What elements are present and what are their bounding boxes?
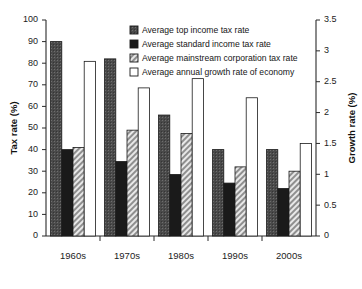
chart-container: 0102030405060708090100Tax rate (%)00.511…: [0, 0, 362, 289]
y-tick-label-right: 1.5: [324, 138, 337, 148]
bar-2000s-series-4[interactable]: [300, 143, 311, 236]
y-tick-label-left: 80: [28, 58, 38, 68]
x-tick-label-1960s: 1960s: [60, 250, 86, 261]
bar-1990s-series-3[interactable]: [235, 167, 246, 236]
y-tick-label-right: 3.5: [324, 14, 337, 24]
y-tick-label-left: 100: [23, 14, 38, 24]
bar-1980s-series-2[interactable]: [170, 174, 181, 236]
legend-swatch-2[interactable]: [130, 40, 138, 48]
y-tick-label-left: 60: [28, 101, 38, 111]
x-tick-label-1980s: 1980s: [168, 250, 194, 261]
legend-label-1: Average top income tax rate: [142, 25, 250, 35]
x-tick-label-1970s: 1970s: [114, 250, 140, 261]
bar-2000s-series-3[interactable]: [289, 171, 300, 236]
bar-1970s-series-2[interactable]: [116, 161, 127, 236]
grouped-bar-chart: 0102030405060708090100Tax rate (%)00.511…: [0, 0, 362, 289]
x-tick-label-1990s: 1990s: [222, 250, 248, 261]
bar-1990s-series-4[interactable]: [246, 98, 257, 236]
bar-1970s-series-3[interactable]: [127, 130, 138, 236]
bar-1990s-series-1[interactable]: [213, 150, 224, 236]
y-tick-label-left: 90: [28, 36, 38, 46]
y-tick-label-right: 2: [324, 107, 329, 117]
bar-1970s-series-1[interactable]: [105, 59, 116, 236]
bar-1960s-series-2[interactable]: [62, 150, 73, 236]
y-tick-label-right: 1: [324, 169, 329, 179]
y-tick-label-left: 70: [28, 79, 38, 89]
legend-label-2: Average standard income tax rate: [142, 39, 271, 49]
bar-1980s-series-3[interactable]: [181, 133, 192, 236]
y-tick-label-left: 10: [28, 209, 38, 219]
legend-swatch-3[interactable]: [130, 54, 138, 62]
y-tick-label-right: 3: [324, 45, 329, 55]
y-tick-label-left: 50: [28, 122, 38, 132]
bar-1970s-series-4[interactable]: [138, 88, 149, 236]
y-tick-label-left: 40: [28, 144, 38, 154]
y-axis-title-left: Tax rate (%): [8, 101, 19, 154]
bar-1960s-series-3[interactable]: [73, 147, 84, 236]
bar-1980s-series-1[interactable]: [159, 115, 170, 236]
bar-1990s-series-2[interactable]: [224, 183, 235, 236]
y-tick-label-right: 0: [324, 230, 329, 240]
y-tick-label-right: 2.5: [324, 76, 337, 86]
y-tick-label-right: 0.5: [324, 200, 337, 210]
y-tick-label-left: 30: [28, 166, 38, 176]
bar-1960s-series-4[interactable]: [84, 61, 95, 236]
y-tick-label-left: 0: [33, 230, 38, 240]
legend-swatch-1[interactable]: [130, 26, 138, 34]
x-tick-label-2000s: 2000s: [276, 250, 302, 261]
legend-label-3: Average mainstream corporation tax rate: [142, 53, 298, 63]
bar-2000s-series-2[interactable]: [278, 188, 289, 236]
bar-1980s-series-4[interactable]: [192, 79, 203, 236]
y-axis-title-right: Growth rate (%): [346, 93, 357, 164]
legend-swatch-4[interactable]: [130, 68, 138, 76]
bar-1960s-series-1[interactable]: [51, 42, 62, 236]
y-tick-label-left: 20: [28, 187, 38, 197]
bar-2000s-series-1[interactable]: [267, 150, 278, 236]
legend-label-4: Average annual growth rate of economy: [142, 67, 295, 77]
